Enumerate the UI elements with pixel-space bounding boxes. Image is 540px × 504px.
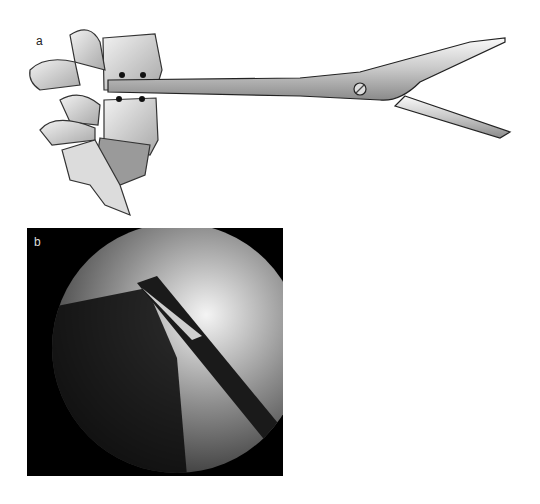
panel-b-label: b <box>34 235 41 249</box>
surgical-scissors-icon <box>108 38 510 138</box>
vertebrae-icon <box>30 30 162 215</box>
fluoroscopy-image <box>27 228 283 476</box>
panel-b-fluoroscopy: b <box>27 228 283 476</box>
spine-instrument-illustration <box>0 0 540 225</box>
panel-a-label: a <box>36 34 43 48</box>
panel-a-illustration: a <box>0 0 540 225</box>
